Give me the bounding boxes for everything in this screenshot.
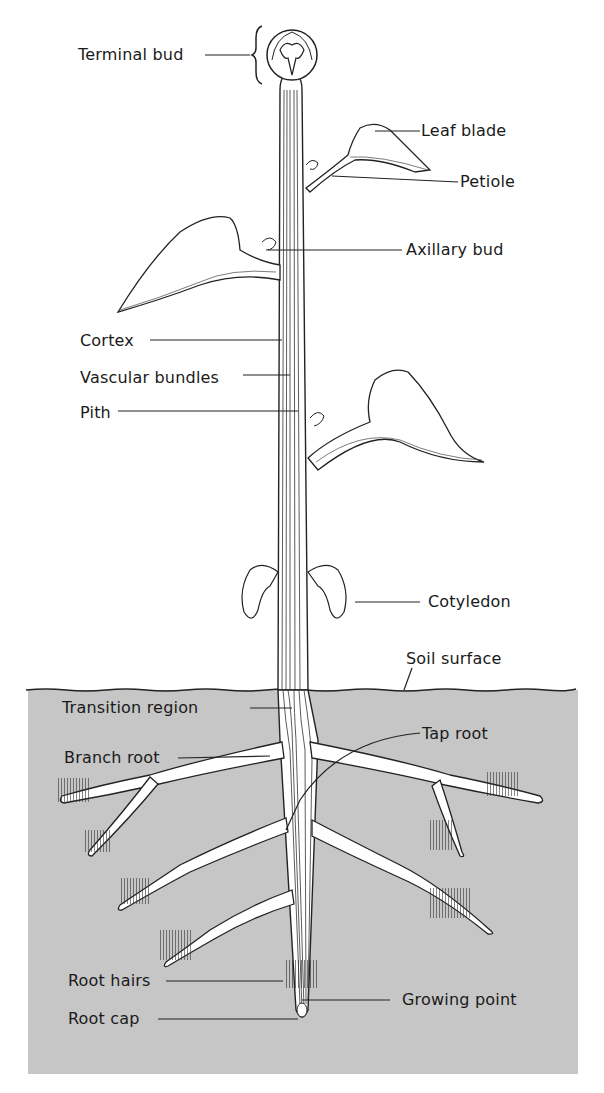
label-cotyledon: Cotyledon <box>428 593 511 611</box>
label-growing-point: Growing point <box>402 991 517 1009</box>
leaf-upper-right <box>306 124 430 192</box>
terminal-bud-bracket <box>252 26 262 84</box>
label-axillary-bud: Axillary bud <box>406 241 504 259</box>
leaf-right-middle <box>308 370 484 470</box>
label-branch-root: Branch root <box>64 749 160 767</box>
label-terminal-bud: Terminal bud <box>78 46 184 64</box>
label-tap-root: Tap root <box>422 725 488 743</box>
label-transition-region: Transition region <box>62 699 198 717</box>
cotyledon-left <box>242 565 278 618</box>
label-cortex: Cortex <box>80 332 134 350</box>
plant-illustration <box>0 0 604 1093</box>
label-root-hairs: Root hairs <box>68 972 151 990</box>
label-vascular-bundles: Vascular bundles <box>80 369 219 387</box>
label-root-cap: Root cap <box>68 1010 140 1028</box>
label-petiole: Petiole <box>460 173 515 191</box>
cotyledon-right <box>308 565 346 618</box>
label-leaf-blade: Leaf blade <box>421 122 506 140</box>
leaf-left <box>118 217 280 312</box>
label-pith: Pith <box>80 404 111 422</box>
label-soil-surface: Soil surface <box>406 650 501 668</box>
plant-anatomy-diagram: Terminal bud Leaf blade Petiole Axillary… <box>0 0 604 1093</box>
